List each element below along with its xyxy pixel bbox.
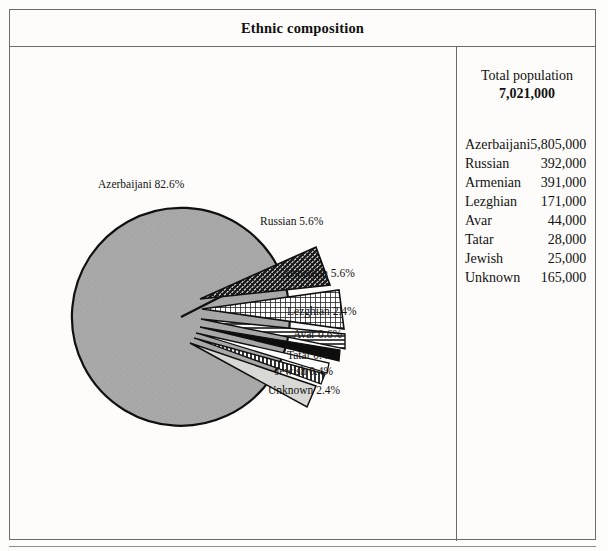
table-cell-count: 28,000 [530, 231, 598, 250]
table-cell-count: 392,000 [530, 155, 598, 174]
pie-label-russian: Russian 5.6% [260, 215, 324, 227]
page-title: Ethnic composition [241, 20, 364, 37]
table-row: Avar 44,000 [457, 212, 598, 231]
table-cell-group: Azerbaijani [457, 136, 530, 155]
pie-label-tatar: Tatar 0.4% [287, 349, 338, 361]
table-cell-count: 44,000 [530, 212, 598, 231]
table-cell-group: Tatar [457, 231, 530, 250]
total-population-value: 7,021,000 [457, 86, 597, 102]
table-row: Lezghian 171,000 [457, 193, 598, 212]
table-cell-count: 171,000 [530, 193, 598, 212]
pie-label-avar: Avar 0.6% [293, 328, 342, 340]
total-population-label: Total population [457, 68, 597, 84]
pie-label-unknown: Unknown 2.4% [268, 384, 341, 396]
pie-label-armenian: Armenian 5.6% [282, 267, 355, 279]
population-table-body: Azerbaijani 5,805,000 Russian 392,000 Ar… [457, 136, 598, 288]
table-cell-group: Avar [457, 212, 530, 231]
pie-label-azerbaijani: Azerbaijani 82.6% [98, 178, 185, 191]
figure-title-bar: Ethnic composition [10, 10, 595, 47]
pie-label-jewish: Jewish 0.4% [275, 365, 334, 377]
page-bottom-rule [9, 546, 596, 547]
table-cell-count: 165,000 [530, 269, 598, 288]
figure-frame: Ethnic composition [9, 9, 596, 540]
table-row: Russian 392,000 [457, 155, 598, 174]
table-cell-group: Jewish [457, 250, 530, 269]
population-table: Azerbaijani 5,805,000 Russian 392,000 Ar… [457, 136, 598, 288]
table-cell-group: Armenian [457, 174, 530, 193]
total-population-block: Total population 7,021,000 [457, 68, 597, 102]
table-row: Armenian 391,000 [457, 174, 598, 193]
pie-chart-svg: Azerbaijani 82.6% Russian 5.6% Armenian … [10, 47, 456, 541]
table-cell-count: 25,000 [530, 250, 598, 269]
pie-chart-pane: Azerbaijani 82.6% Russian 5.6% Armenian … [10, 47, 456, 541]
table-cell-count: 5,805,000 [530, 136, 598, 155]
table-row: Tatar 28,000 [457, 231, 598, 250]
population-table-pane: Total population 7,021,000 Azerbaijani 5… [457, 47, 597, 541]
table-cell-group: Unknown [457, 269, 530, 288]
table-cell-group: Lezghian [457, 193, 530, 212]
table-row: Jewish 25,000 [457, 250, 598, 269]
table-row: Unknown 165,000 [457, 269, 598, 288]
table-cell-group: Russian [457, 155, 530, 174]
table-cell-count: 391,000 [530, 174, 598, 193]
table-row: Azerbaijani 5,805,000 [457, 136, 598, 155]
pie-label-lezghian: Lezghian 2.4% [287, 305, 357, 318]
